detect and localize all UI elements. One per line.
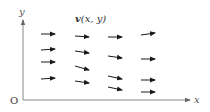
- y-axis-label: y: [18, 6, 25, 17]
- vector-arrow-icon: [108, 87, 122, 90]
- x-axis-label: x: [194, 94, 200, 105]
- vector-arrow-icon: [75, 36, 89, 37]
- vector-arrow-icon: [41, 78, 55, 79]
- vector-arrows: [41, 33, 155, 92]
- origin-label: O: [10, 95, 18, 106]
- field-title-args: (x, y): [81, 13, 107, 24]
- field-title: v(x, y): [75, 13, 106, 24]
- vector-arrow-icon: [75, 81, 89, 83]
- vector-arrow-icon: [108, 56, 122, 58]
- vector-arrow-icon: [41, 49, 55, 50]
- vector-field-diagram: y x O v(x, y): [0, 0, 210, 112]
- vector-arrow-icon: [75, 51, 89, 53]
- vector-arrow-icon: [108, 76, 122, 79]
- vector-arrow-icon: [141, 33, 155, 35]
- vector-arrow-icon: [75, 66, 89, 70]
